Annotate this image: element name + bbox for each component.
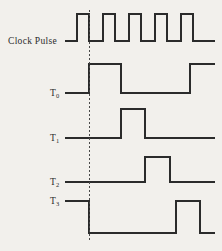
signal-label-clock: Clock Pulse: [8, 36, 57, 46]
signal-label-t2: T2: [50, 177, 59, 187]
timing-diagram: Clock Pulse T0 T1 T2 T3: [0, 0, 222, 251]
waveform-t0: [65, 64, 215, 93]
signal-label-t3: T3: [50, 196, 59, 206]
waveform-t3: [65, 201, 215, 233]
signal-label-t0-sub: 0: [56, 92, 59, 99]
signal-label-t2-sub: 2: [56, 181, 59, 188]
signal-label-t3-sub: 3: [56, 200, 59, 207]
signal-label-t1: T1: [50, 133, 59, 143]
waveform-t1: [65, 109, 215, 138]
signal-label-t0: T0: [50, 88, 59, 98]
waveform-clock-pulse: [65, 14, 215, 41]
signal-label-t1-sub: 1: [56, 137, 59, 144]
waveform-t2: [65, 157, 215, 182]
signal-path-group: [65, 14, 215, 233]
